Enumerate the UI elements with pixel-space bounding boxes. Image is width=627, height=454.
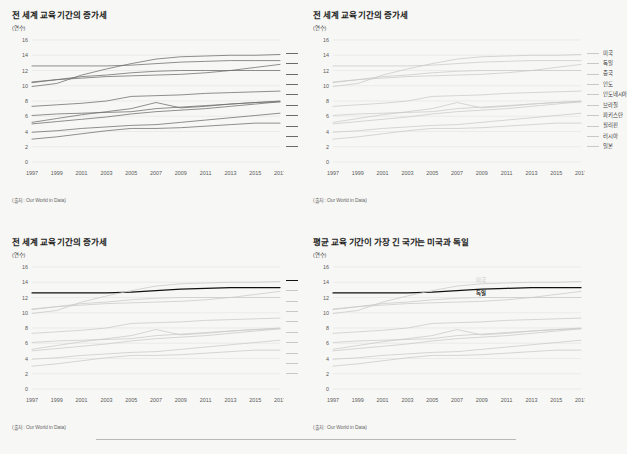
source-note: (출처: Our World in Data) <box>12 423 66 430</box>
legend-swatch-icon <box>286 332 298 333</box>
legend-label: 러시아 <box>603 134 618 139</box>
svg-text:2003: 2003 <box>100 397 112 403</box>
svg-text:4: 4 <box>326 129 329 135</box>
svg-text:2001: 2001 <box>76 170 88 176</box>
svg-text:10: 10 <box>323 310 329 316</box>
legend-swatch-icon <box>286 126 298 127</box>
plot-area: 0246810121416199719992001200320052007200… <box>12 34 284 186</box>
svg-text:6: 6 <box>25 113 28 119</box>
svg-text:2015: 2015 <box>550 170 562 176</box>
source-note: (출처: Our World in Data) <box>12 196 66 203</box>
svg-text:2013: 2013 <box>525 397 537 403</box>
legend-item-1[interactable]: 독일 <box>587 59 627 69</box>
svg-text:2005: 2005 <box>125 397 137 403</box>
svg-text:2007: 2007 <box>150 170 162 176</box>
chart-legend: 미국독일중국인도인도네시아브라질파키스탄필리핀러시아일본 <box>587 48 627 152</box>
svg-text:2017: 2017 <box>274 170 284 176</box>
svg-text:16: 16 <box>323 264 329 270</box>
svg-text:4: 4 <box>25 356 28 362</box>
legend-swatch-icon <box>286 136 298 137</box>
svg-text:1999: 1999 <box>352 397 364 403</box>
panel-bottom-right: 평균 교육 기간이 가장 긴 국가는 미국과 독일 (연수) 024681012… <box>301 227 602 454</box>
legend-item-0[interactable]: 미국 <box>587 48 627 58</box>
svg-text:2013: 2013 <box>224 397 236 403</box>
svg-text:12: 12 <box>22 295 28 301</box>
svg-text:2015: 2015 <box>249 397 261 403</box>
svg-text:2017: 2017 <box>575 170 585 176</box>
footer-divider <box>96 439 516 440</box>
svg-text:2017: 2017 <box>274 397 284 403</box>
svg-text:2007: 2007 <box>150 397 162 403</box>
legend-swatch-icon <box>587 126 599 127</box>
legend-item-8[interactable]: 러시아 <box>587 131 627 141</box>
line-chart-svg: 0246810121416199719992001200320052007200… <box>12 34 284 186</box>
legend-swatch-icon <box>286 301 298 302</box>
svg-text:2003: 2003 <box>401 397 413 403</box>
svg-text:2013: 2013 <box>525 170 537 176</box>
legend-item-4[interactable]: 인도네시아 <box>587 90 627 100</box>
svg-text:2: 2 <box>25 371 28 377</box>
legend-item-9[interactable]: 일본 <box>587 142 627 152</box>
svg-text:12: 12 <box>22 68 28 74</box>
svg-text:12: 12 <box>323 68 329 74</box>
svg-text:1997: 1997 <box>327 170 339 176</box>
legend-swatch-icon <box>286 363 298 364</box>
svg-text:1999: 1999 <box>51 397 63 403</box>
svg-text:2: 2 <box>25 144 28 150</box>
legend-label: 미국 <box>603 51 613 56</box>
svg-text:16: 16 <box>323 37 329 43</box>
line-chart-svg: 0246810121416199719992001200320052007200… <box>313 34 585 186</box>
legend-swatch-icon <box>286 94 298 95</box>
svg-text:2015: 2015 <box>249 170 261 176</box>
svg-text:2001: 2001 <box>377 170 389 176</box>
svg-text:10: 10 <box>22 310 28 316</box>
svg-text:6: 6 <box>326 340 329 346</box>
legend-swatch-icon <box>286 74 298 75</box>
legend-label: 인도네시아 <box>603 92 627 97</box>
chart-title: 평균 교육 기간이 가장 긴 국가는 미국과 독일 <box>313 237 592 247</box>
source-note: (출처: Our World in Data) <box>313 423 367 430</box>
legend-swatch-icon <box>286 373 298 374</box>
svg-text:2: 2 <box>326 144 329 150</box>
legend-item-2[interactable]: 중국 <box>587 69 627 79</box>
y-axis-unit: (연수) <box>313 251 592 259</box>
chart-title: 전 세계 교육 기간의 증가세 <box>12 237 291 247</box>
svg-text:0: 0 <box>25 159 28 165</box>
legend-item-5[interactable]: 브라질 <box>587 100 627 110</box>
svg-text:2011: 2011 <box>501 397 513 403</box>
svg-text:2007: 2007 <box>451 397 463 403</box>
svg-text:1999: 1999 <box>352 170 364 176</box>
line-chart-svg: 0246810121416199719992001200320052007200… <box>313 261 585 413</box>
legend-swatch-icon <box>587 115 599 116</box>
svg-text:12: 12 <box>323 295 329 301</box>
svg-text:8: 8 <box>25 325 28 331</box>
legend-swatch-icon <box>286 146 298 147</box>
chart-title: 전 세계 교육 기간의 증가세 <box>313 10 592 20</box>
svg-text:14: 14 <box>323 279 329 285</box>
legend-item-3[interactable]: 인도 <box>587 79 627 89</box>
legend-swatch-icon <box>286 115 298 116</box>
inline-label-1: 독일 <box>476 289 486 297</box>
legend-swatch-icon <box>587 136 599 137</box>
legend-label: 독일 <box>603 61 613 66</box>
svg-text:8: 8 <box>326 325 329 331</box>
svg-text:10: 10 <box>22 83 28 89</box>
svg-text:2007: 2007 <box>451 170 463 176</box>
svg-text:16: 16 <box>22 264 28 270</box>
svg-text:0: 0 <box>326 159 329 165</box>
svg-text:2011: 2011 <box>200 170 212 176</box>
legend-label: 필리핀 <box>603 123 618 128</box>
legend-swatch-icon <box>286 290 298 291</box>
legend-item-7[interactable]: 필리핀 <box>587 121 627 131</box>
svg-text:2005: 2005 <box>125 170 137 176</box>
svg-text:2009: 2009 <box>175 170 187 176</box>
svg-text:2015: 2015 <box>550 397 562 403</box>
legend-item-6[interactable]: 파키스탄 <box>587 111 627 121</box>
legend-label: 중국 <box>603 71 613 76</box>
panel-top-right: 전 세계 교육 기간의 증가세 (연수) 0246810121416199719… <box>301 0 602 227</box>
svg-text:14: 14 <box>323 52 329 58</box>
svg-text:8: 8 <box>326 98 329 104</box>
legend-swatch-icon <box>286 311 298 312</box>
svg-text:2009: 2009 <box>175 397 187 403</box>
inline-label-0: 미국 <box>476 276 486 284</box>
